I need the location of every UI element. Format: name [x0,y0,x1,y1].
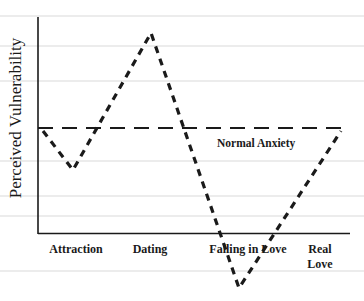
x-tick-falling-in-love: Falling in Love [208,242,288,257]
x-tick-dating: Dating [125,242,175,257]
normal-anxiety-label: Normal Anxiety [217,137,295,149]
y-axis-label: Perceived Vulnerability [4,18,28,218]
x-tick-attraction: Attraction [46,242,106,257]
x-tick-real-love: Real Love [300,242,340,272]
